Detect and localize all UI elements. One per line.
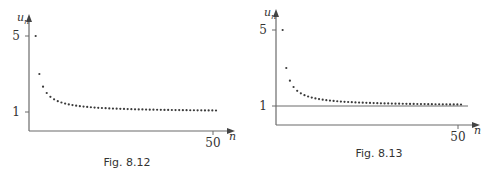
data-point [296, 90, 298, 92]
data-point [431, 103, 433, 105]
data-points [35, 35, 218, 112]
data-point [453, 103, 455, 105]
data-point [208, 109, 210, 111]
data-point [163, 109, 165, 111]
figure-caption: Fig. 8.12 [103, 156, 150, 169]
data-point [204, 109, 206, 111]
data-point [167, 109, 169, 111]
data-point [394, 103, 396, 105]
data-point [171, 109, 173, 111]
data-point [42, 86, 44, 88]
data-point [57, 100, 59, 102]
y-axis-label: un [264, 6, 276, 21]
data-point [53, 98, 55, 100]
data-point [130, 108, 132, 110]
data-point [127, 108, 129, 110]
data-point [303, 94, 305, 96]
data-points [282, 29, 463, 106]
data-point [35, 35, 37, 37]
data-point [90, 106, 92, 108]
data-point [434, 103, 436, 105]
data-point [134, 108, 136, 110]
data-point [112, 107, 114, 109]
data-point [46, 92, 48, 94]
data-point [329, 99, 331, 101]
data-point [108, 107, 110, 109]
data-point [185, 109, 187, 111]
data-point [365, 102, 367, 104]
data-point [416, 103, 418, 105]
data-point [152, 109, 154, 111]
data-point [314, 97, 316, 99]
data-point [449, 103, 451, 105]
data-point [409, 103, 411, 105]
data-point [285, 67, 287, 69]
data-point [307, 95, 309, 97]
data-point [460, 103, 462, 105]
ticks: 5150 [12, 29, 220, 150]
x-axis-label: n [474, 124, 481, 137]
y-axis-label: un [17, 11, 29, 26]
data-point [333, 100, 335, 102]
data-point [373, 102, 375, 104]
data-point [322, 99, 324, 101]
data-point [292, 86, 294, 88]
data-point [343, 101, 345, 103]
data-point [93, 106, 95, 108]
data-point [340, 100, 342, 102]
data-point [60, 101, 62, 103]
data-point [391, 102, 393, 104]
y-tick-label: 1 [12, 105, 20, 119]
data-point [197, 109, 199, 111]
data-point [149, 109, 151, 111]
data-point [438, 103, 440, 105]
data-point [49, 96, 51, 98]
data-point [311, 96, 313, 98]
data-point [383, 102, 385, 104]
figure-8-12: un n 5150 Fig. 8.12 [12, 11, 236, 169]
data-point [351, 101, 353, 103]
data-point [413, 103, 415, 105]
data-point [160, 109, 162, 111]
data-point [141, 108, 143, 110]
data-point [68, 103, 70, 105]
data-point [101, 107, 103, 109]
data-point [424, 103, 426, 105]
data-point [97, 107, 99, 109]
data-point [420, 103, 422, 105]
data-point [318, 98, 320, 100]
data-point [145, 108, 147, 110]
x-axis-label: n [229, 130, 236, 143]
y-tick-label: 5 [259, 23, 267, 37]
x-tick-label: 50 [450, 130, 465, 144]
ticks: 5150 [259, 23, 468, 144]
data-point [193, 109, 195, 111]
data-point [380, 102, 382, 104]
data-point [325, 99, 327, 101]
data-point [178, 109, 180, 111]
data-point [116, 108, 118, 110]
data-point [71, 104, 73, 106]
data-point [358, 101, 360, 103]
data-point [156, 109, 158, 111]
data-point [38, 73, 40, 75]
figure-caption: Fig. 8.13 [355, 147, 402, 160]
data-point [174, 109, 176, 111]
y-tick-label: 1 [259, 99, 267, 113]
data-point [211, 109, 213, 111]
data-point [405, 103, 407, 105]
data-point [387, 102, 389, 104]
figure-8-13: un n 5150 Fig. 8.13 [259, 6, 481, 160]
figures-canvas: un n 5150 Fig. 8.12 un n 5150 Fig. 8.13 [0, 0, 497, 175]
data-point [75, 105, 77, 107]
data-point [354, 101, 356, 103]
data-point [86, 106, 88, 108]
data-point [369, 102, 371, 104]
data-point [189, 109, 191, 111]
data-point [427, 103, 429, 105]
data-point [402, 103, 404, 105]
data-point [105, 107, 107, 109]
y-tick-label: 5 [12, 29, 20, 43]
data-point [123, 108, 125, 110]
data-point [200, 109, 202, 111]
